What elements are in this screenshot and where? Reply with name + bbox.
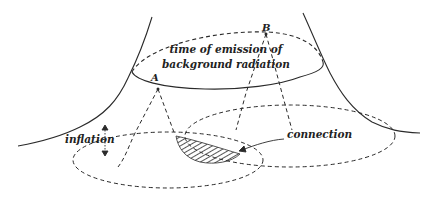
point-a-label: A xyxy=(151,73,159,83)
connection-label: connection xyxy=(287,129,352,140)
emission-time-label-line2: background radiation xyxy=(162,57,290,72)
cosmology-diagram xyxy=(0,0,435,200)
inflation-arrow-up-icon xyxy=(102,125,108,130)
point-a-marker xyxy=(157,88,160,91)
left-boundary-curve xyxy=(18,17,152,146)
emission-time-label-line1: time of emission of xyxy=(162,42,290,57)
connection-overlap-region xyxy=(176,136,240,163)
inflation-label: inflation xyxy=(65,134,115,145)
light-cone-a-right xyxy=(158,89,175,135)
point-b-label: B xyxy=(262,23,270,33)
emission-time-label: time of emission of background radiation xyxy=(162,42,290,72)
connection-pointer-arrowhead-icon xyxy=(239,146,246,152)
right-boundary-curve xyxy=(303,13,420,133)
inflation-arrow-down-icon xyxy=(102,151,108,156)
light-cone-a-left xyxy=(118,89,158,167)
